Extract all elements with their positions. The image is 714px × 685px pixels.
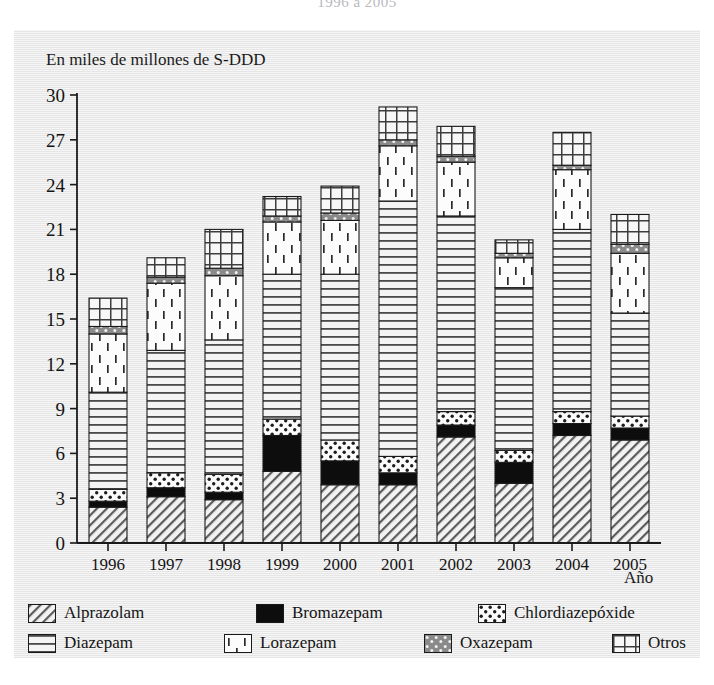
legend-item-bromazepam[interactable]: Bromazepam <box>256 603 383 623</box>
bar-segment <box>379 456 417 472</box>
bar-segment <box>495 462 533 483</box>
y-tick-label: 27 <box>46 130 65 151</box>
x-tick-label: 2000 <box>323 555 357 574</box>
legend-label-bromazepam: Bromazepam <box>292 603 383 623</box>
bar-segment <box>321 485 359 543</box>
bar-segment <box>321 274 359 440</box>
bar-segment <box>495 450 533 462</box>
y-tick-label: 3 <box>56 488 66 509</box>
bar-segment <box>263 419 301 435</box>
bar-segment <box>437 126 475 156</box>
bar-segment <box>495 253 533 257</box>
bar-segment <box>553 132 591 165</box>
bar-segment <box>147 497 185 543</box>
legend-row: AlprazolamBromazepamChlordiazepóxide <box>28 598 688 628</box>
bar-segment <box>89 501 127 507</box>
bar-segment <box>553 229 591 411</box>
bar-segment <box>611 253 649 313</box>
plot-bars <box>89 107 649 543</box>
legend-item-alprazolam[interactable]: Alprazolam <box>28 603 144 623</box>
bar-segment <box>263 435 301 471</box>
x-tick-label: 2003 <box>497 555 531 574</box>
bar-segment <box>553 435 591 543</box>
bar-segment <box>495 240 533 253</box>
bar-segment <box>205 340 243 474</box>
bar-segment <box>263 197 301 216</box>
legend-label-otros: Otros <box>648 633 686 653</box>
bar-segment <box>437 162 475 216</box>
legend-item-diazepam[interactable]: Diazepam <box>28 633 133 653</box>
legend-swatch-chlordiazepoxide-icon <box>478 604 506 623</box>
bar-segment <box>263 216 301 222</box>
bar-segment <box>263 222 301 274</box>
legend-swatch-lorazepam-icon <box>224 634 252 653</box>
bar-segment <box>495 483 533 543</box>
legend-swatch-otros-icon <box>612 634 640 653</box>
bar-segment <box>89 392 127 489</box>
bar-segment <box>495 258 533 288</box>
bar-segment <box>205 500 243 543</box>
bar-segment <box>553 412 591 424</box>
x-tick-label: 1997 <box>149 555 184 574</box>
bar-segment <box>89 334 127 392</box>
chart-page: 1996 a 2005 En miles de millones de S-DD… <box>0 0 714 685</box>
bar-segment <box>205 492 243 499</box>
x-tick-label: 1998 <box>207 555 241 574</box>
legend-label-diazepam: Diazepam <box>64 633 133 653</box>
bar-segment <box>321 186 359 213</box>
bar-segment <box>147 277 185 283</box>
x-tick-label: 2001 <box>381 555 415 574</box>
legend-label-alprazolam: Alprazolam <box>64 603 144 623</box>
bar-segment <box>205 474 243 492</box>
bar-segment <box>379 140 417 146</box>
y-tick-label: 21 <box>46 219 65 240</box>
bar-segment <box>611 313 649 416</box>
legend-label-oxazepam: Oxazepam <box>460 633 533 653</box>
bar-segment <box>379 473 417 485</box>
bar-segment <box>89 507 127 543</box>
bar-segment <box>437 412 475 425</box>
bar-segment <box>263 471 301 543</box>
bar-segment <box>147 350 185 472</box>
legend-swatch-alprazolam-icon <box>28 604 56 623</box>
bar-segment <box>437 216 475 412</box>
bar-segment <box>263 274 301 419</box>
bar-segment <box>147 473 185 488</box>
legend-label-chlordiazepoxide: Chlordiazepóxide <box>514 603 635 623</box>
bar-segment <box>205 268 243 275</box>
bar-segment <box>379 201 417 456</box>
y-tick-label: 24 <box>46 175 66 196</box>
x-tick-label: 2004 <box>555 555 590 574</box>
bar-segment <box>89 489 127 501</box>
bar-segment <box>321 213 359 220</box>
y-tick-label: 30 <box>46 85 65 106</box>
bar-segment <box>611 440 649 543</box>
legend-swatch-oxazepam-icon <box>424 634 452 653</box>
bar-segment <box>495 288 533 451</box>
bar-segment <box>321 220 359 274</box>
y-tick-label: 9 <box>56 399 66 420</box>
x-tick-label: 1996 <box>91 555 125 574</box>
bar-segment <box>553 170 591 230</box>
legend-item-otros[interactable]: Otros <box>612 633 686 653</box>
legend-label-lorazepam: Lorazepam <box>260 633 336 653</box>
bar-segment <box>437 425 475 437</box>
y-tick-label: 6 <box>56 443 66 464</box>
legend-item-lorazepam[interactable]: Lorazepam <box>224 633 336 653</box>
legend-row: DiazepamLorazepamOxazepamOtros <box>28 628 688 658</box>
bar-segment <box>437 437 475 543</box>
x-tick-label: 1999 <box>265 555 299 574</box>
legend-item-oxazepam[interactable]: Oxazepam <box>424 633 533 653</box>
bar-segment <box>611 214 649 244</box>
legend-swatch-diazepam-icon <box>28 634 56 653</box>
bar-segment <box>321 440 359 461</box>
y-tick-label: 12 <box>46 354 65 375</box>
x-tick-label: 2002 <box>439 555 473 574</box>
bar-segment <box>437 156 475 162</box>
y-tick-label: 18 <box>46 264 65 285</box>
bar-segment <box>147 283 185 350</box>
legend-item-chlordiazepoxide[interactable]: Chlordiazepóxide <box>478 603 635 623</box>
x-axis: 1996199719981999200020012002200320042005 <box>77 543 661 574</box>
bar-segment <box>611 244 649 253</box>
y-tick-label: 0 <box>56 533 66 554</box>
